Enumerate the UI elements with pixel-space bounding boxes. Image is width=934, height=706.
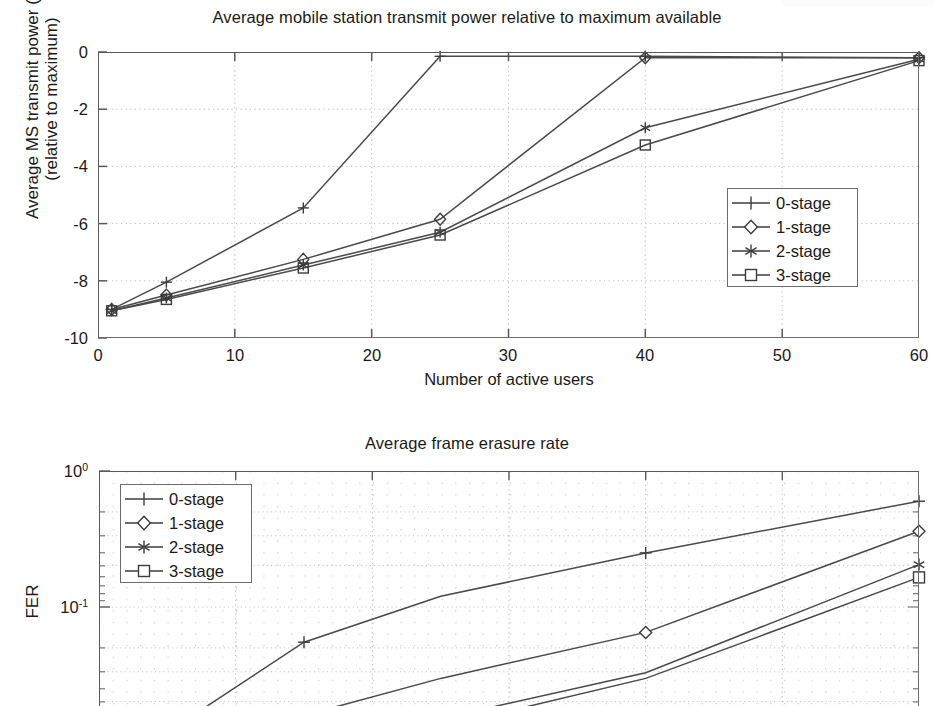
chart1-xtick-20: 20 <box>363 346 381 365</box>
chart2-legend-label-3: 3-stage <box>169 562 224 581</box>
chart-frame-erasure-rate: Average frame erasure rate FER 100 10-1 <box>0 400 934 706</box>
chart1-xtick-10: 10 <box>226 346 244 365</box>
chart1-ytick-m8: -8 <box>48 272 88 291</box>
chart1-legend-label-1: 1-stage <box>776 218 831 237</box>
chart1-legend-row-2: 2-stage <box>728 239 857 263</box>
asterisk-icon <box>121 535 167 559</box>
diamond-icon <box>121 511 167 535</box>
chart1-ytick-m2: -2 <box>48 100 88 119</box>
chart1-legend-row-0: 0-stage <box>728 191 857 215</box>
chart2-legend-label-2: 2-stage <box>169 538 224 557</box>
diamond-icon <box>728 215 774 239</box>
chart2-ytick-1em1-exponent: -1 <box>79 597 88 609</box>
chart1-xtick-60: 60 <box>910 346 928 365</box>
chart1-legend-row-3: 3-stage <box>728 263 857 287</box>
chart1-xtick-30: 30 <box>499 346 517 365</box>
chart2-legend-row-1: 1-stage <box>121 511 251 535</box>
asterisk-icon <box>728 239 774 263</box>
chart1-legend-row-1: 1-stage <box>728 215 857 239</box>
chart2-ytick-1e0-exponent: 0 <box>82 461 88 473</box>
chart1-title: Average mobile station transmit power re… <box>0 8 934 27</box>
chart1-xtick-40: 40 <box>636 346 654 365</box>
chart2-legend-row-0: 0-stage <box>121 487 251 511</box>
chart2-ytick-1e0-mantissa: 10 <box>64 462 82 480</box>
plus-icon <box>121 487 167 511</box>
plus-icon <box>728 191 774 215</box>
chart2-legend-label-1: 1-stage <box>169 514 224 533</box>
chart1-x-axis-label: Number of active users <box>0 370 934 389</box>
chart1-y-axis-label-line1: Average MS transmit power (dB) <box>23 0 42 219</box>
chart1-xtick-0: 0 <box>93 346 102 365</box>
chart1-legend-label-0: 0-stage <box>776 194 831 213</box>
chart2-legend-row-2: 2-stage <box>121 535 251 559</box>
chart1-legend: 0-stage 1-stage 2-stage 3-stage <box>727 188 858 287</box>
chart1-ytick-m10: -10 <box>40 329 88 348</box>
chart2-ytick-1em1-mantissa: 10 <box>60 598 78 616</box>
chart2-legend: 0-stage 1-stage 2-stage 3-stage <box>120 484 252 583</box>
chart2-legend-row-3: 3-stage <box>121 559 251 583</box>
chart1-legend-label-3: 3-stage <box>776 266 831 285</box>
chart2-ytick-1em1: 10-1 <box>30 597 88 618</box>
chart1-legend-label-2: 2-stage <box>776 242 831 261</box>
chart2-title: Average frame erasure rate <box>0 434 934 453</box>
chart2-ytick-1e0: 100 <box>36 461 88 482</box>
chart1-ytick-m6: -6 <box>48 215 88 234</box>
chart1-xtick-50: 50 <box>773 346 791 365</box>
square-icon <box>121 559 167 583</box>
chart1-ytick-m4: -4 <box>48 157 88 176</box>
chart-transmit-power: Average mobile station transmit power re… <box>0 0 934 400</box>
square-icon <box>728 263 774 287</box>
figure-page: Average mobile station transmit power re… <box>0 0 934 706</box>
chart1-ytick-0: 0 <box>48 43 88 62</box>
chart2-legend-label-0: 0-stage <box>169 490 224 509</box>
